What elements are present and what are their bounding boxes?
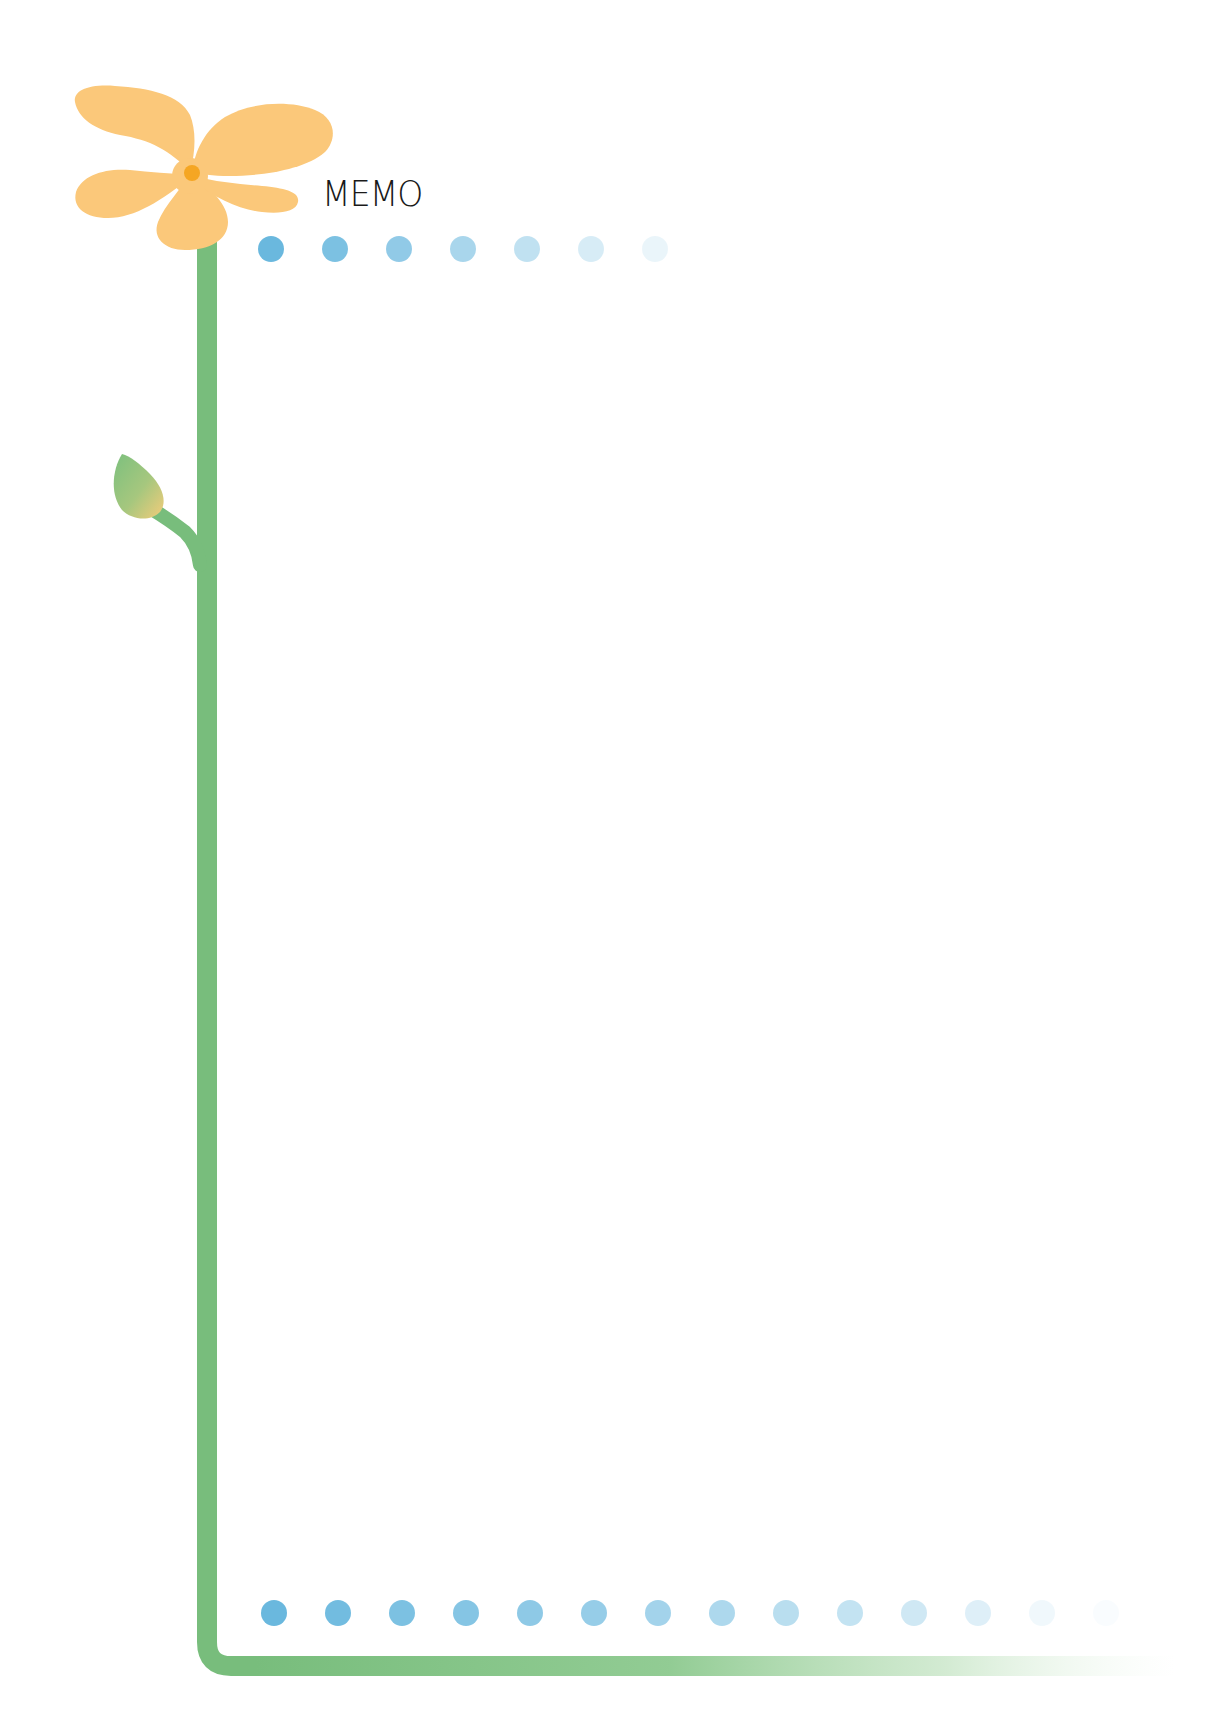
dot-icon xyxy=(1029,1600,1055,1626)
memo-page: MEMO xyxy=(0,0,1229,1731)
dot-icon xyxy=(901,1600,927,1626)
flower-center-icon xyxy=(184,165,200,181)
dot-icon xyxy=(517,1600,543,1626)
dot-icon xyxy=(642,236,668,262)
dot-icon xyxy=(581,1600,607,1626)
dot-icon xyxy=(514,236,540,262)
dot-icon xyxy=(389,1600,415,1626)
dot-icon xyxy=(453,1600,479,1626)
flower-icon xyxy=(75,86,333,250)
dot-icon xyxy=(965,1600,991,1626)
top-dot-row xyxy=(0,236,1229,262)
dot-icon xyxy=(578,236,604,262)
dot-icon xyxy=(322,236,348,262)
dot-icon xyxy=(325,1600,351,1626)
dot-icon xyxy=(1093,1600,1119,1626)
dot-icon xyxy=(258,236,284,262)
memo-title: MEMO xyxy=(322,176,422,212)
dot-icon xyxy=(837,1600,863,1626)
memo-writing-area[interactable] xyxy=(240,285,1170,1585)
dot-icon xyxy=(261,1600,287,1626)
dot-icon xyxy=(645,1600,671,1626)
dot-icon xyxy=(709,1600,735,1626)
dot-icon xyxy=(386,236,412,262)
bottom-dot-row xyxy=(0,1600,1229,1626)
dot-icon xyxy=(773,1600,799,1626)
dot-icon xyxy=(450,236,476,262)
bud-icon xyxy=(114,454,200,565)
bottom-border-line xyxy=(255,1656,1175,1676)
